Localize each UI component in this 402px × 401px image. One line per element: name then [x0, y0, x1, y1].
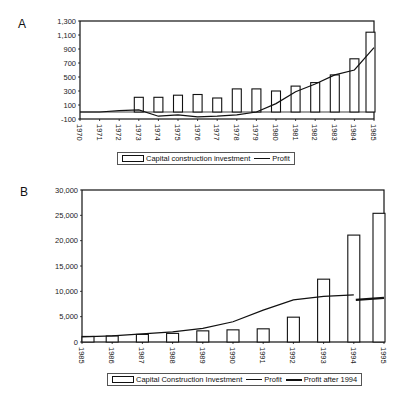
bar: [167, 333, 179, 342]
bar: [373, 213, 385, 342]
legend-a: Capital construction investment Profit: [117, 152, 295, 165]
x-tick-label: 1991: [258, 347, 267, 364]
legend-label: Capital Construction Investment: [136, 375, 242, 384]
legend-b: Capital Construction Investment Profit P…: [107, 373, 362, 386]
y-tick-label: 20,000: [55, 236, 78, 245]
bar-swatch-icon: [112, 376, 134, 383]
bar: [136, 334, 148, 342]
x-tick-label: 1993: [319, 347, 328, 364]
bar: [257, 329, 269, 342]
y-tick-label: 15,000: [55, 262, 78, 271]
legend-item-profit-after-1994: Profit after 1994: [286, 375, 357, 384]
legend-label: Profit after 1994: [304, 375, 357, 384]
legend-item-profit: Profit: [254, 154, 290, 163]
line-swatch-icon: [254, 158, 270, 159]
x-tick-label: 1988: [168, 347, 177, 364]
bar: [348, 235, 360, 342]
legend-label: Profit: [272, 154, 290, 163]
x-tick-label: 1986: [107, 347, 116, 364]
x-tick-label: 1989: [198, 347, 207, 364]
legend-item-profit: Profit: [246, 375, 282, 384]
bar-swatch-icon: [122, 155, 144, 162]
chart-b: 30,00025,00020,00015,00010,0005,00001985…: [0, 0, 402, 401]
bar: [197, 331, 209, 342]
x-tick-label: 1992: [288, 347, 297, 364]
legend-item-investment: Capital construction investment: [122, 154, 250, 163]
x-tick-label: 1987: [137, 347, 146, 364]
legend-label: Profit: [264, 375, 282, 384]
bar: [106, 336, 118, 342]
y-tick-label: 10,000: [55, 287, 78, 296]
profit-line: [82, 295, 354, 337]
x-tick-label: 1985: [77, 347, 86, 364]
x-tick-label: 1990: [228, 347, 237, 364]
bar: [287, 317, 299, 342]
y-tick-label: 30,000: [55, 186, 78, 195]
x-tick-label: 1994: [349, 347, 358, 364]
legend-label: Capital construction investment: [146, 154, 250, 163]
plot-frame: [82, 190, 384, 342]
bar: [227, 330, 239, 342]
legend-item-investment: Capital Construction Investment: [112, 375, 242, 384]
thick-line-swatch-icon: [286, 379, 302, 381]
x-tick-label: 1995: [379, 347, 388, 364]
y-tick-label: 5,000: [59, 312, 78, 321]
line-swatch-icon: [246, 379, 262, 380]
y-tick-label: 0: [74, 338, 78, 347]
bar: [318, 279, 330, 342]
y-tick-label: 25,000: [55, 211, 78, 220]
